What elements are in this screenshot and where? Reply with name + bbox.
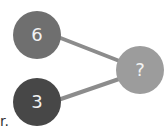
node-three-label: 3 [31, 93, 42, 111]
cropped-text-fragment: r. [0, 114, 9, 128]
edge-bottom-to-result [58, 78, 122, 100]
edge-top-to-result [58, 37, 122, 62]
node-unknown-result: ? [116, 46, 164, 94]
number-bond-diagram: 6 3 ? r. [0, 0, 167, 132]
node-three: 3 [13, 78, 61, 126]
node-six-label: 6 [31, 26, 42, 44]
node-unknown-label: ? [135, 61, 145, 79]
node-six: 6 [13, 11, 61, 59]
